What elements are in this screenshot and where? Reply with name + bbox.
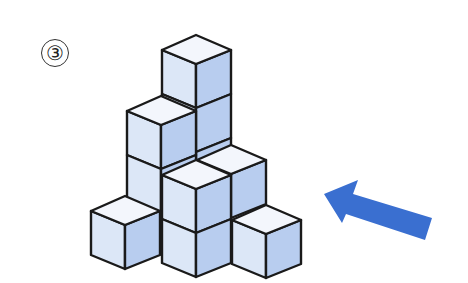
figure-canvas: ③ [0,0,468,283]
view-direction-arrow-icon [324,180,432,240]
cube-stack-diagram [0,0,468,283]
